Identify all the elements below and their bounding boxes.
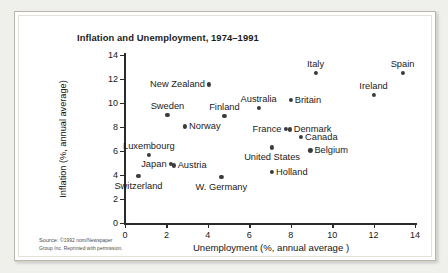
- y-axis-tick-label: 0: [113, 218, 118, 228]
- data-point-label: Finland: [209, 102, 240, 112]
- data-point: [371, 93, 375, 97]
- source-line1: ©1992 nom/Newspaper: [59, 238, 113, 243]
- x-axis-tick: [415, 223, 416, 228]
- data-point: [313, 71, 317, 75]
- data-point-label: Ireland: [359, 81, 387, 91]
- data-point-label: United States: [244, 152, 300, 162]
- data-point: [270, 170, 274, 174]
- source-label: Source:: [39, 237, 59, 243]
- scatter-plot-area: 0246810121402468101214SwitzerlandLuxembo…: [125, 55, 415, 223]
- data-point: [289, 98, 293, 102]
- x-axis-tick: [374, 223, 375, 228]
- data-point-label: Holland: [276, 167, 308, 177]
- x-axis-tick: [208, 223, 209, 228]
- data-point-label: New Zealand: [150, 79, 205, 89]
- data-point-label: Belgium: [314, 145, 348, 155]
- screenshot-frame: Inflation and Unemployment, 1974–1991 In…: [0, 0, 448, 273]
- data-point-label: Austria: [178, 160, 207, 170]
- data-point: [136, 174, 140, 178]
- y-axis-tick: [120, 55, 125, 56]
- data-point: [299, 135, 303, 139]
- source-credit: Source: ©1992 nom/Newspaper Group Inc. R…: [39, 236, 189, 252]
- x-axis-tick-label: 4: [205, 230, 210, 240]
- data-point-label: W. Germany: [195, 182, 247, 192]
- y-axis-tick: [120, 151, 125, 152]
- x-axis-tick: [125, 223, 126, 228]
- y-axis-tick-label: 12: [108, 74, 118, 84]
- data-point-label: France: [253, 124, 282, 134]
- x-axis-tick-label: 6: [247, 230, 252, 240]
- data-point-label: Japan: [141, 159, 166, 169]
- y-axis-tick-label: 8: [113, 122, 118, 132]
- data-point: [222, 114, 226, 118]
- data-point-label: Spain: [391, 59, 415, 69]
- y-axis-title-text: Inflation (%, annual average): [58, 80, 68, 197]
- data-point-label: Luxembourg: [123, 141, 175, 151]
- data-point: [183, 124, 187, 128]
- y-axis-tick-label: 4: [113, 170, 118, 180]
- chart-title: Inflation and Unemployment, 1974–1991: [77, 32, 377, 43]
- x-axis-tick-label: 14: [410, 230, 420, 240]
- y-axis-tick-label: 10: [108, 98, 118, 108]
- y-axis-tick: [120, 175, 125, 176]
- data-point-label: Switzerland: [114, 181, 162, 191]
- data-point: [270, 145, 274, 149]
- data-point: [288, 127, 292, 131]
- data-point: [400, 71, 404, 75]
- x-axis-tick-label: 12: [369, 230, 379, 240]
- x-axis-tick: [332, 223, 333, 228]
- x-axis-tick: [249, 223, 250, 228]
- data-point: [147, 153, 151, 157]
- x-axis-tick: [166, 223, 167, 228]
- data-point-label: Australia: [241, 94, 277, 104]
- figure-plate: Inflation and Unemployment, 1974–1991 In…: [14, 11, 436, 261]
- source-line2: Group Inc. Reprinted with permission.: [39, 246, 123, 251]
- y-axis-tick-label: 14: [108, 50, 118, 60]
- x-axis-tick: [291, 223, 292, 228]
- y-axis-tick-label: 2: [113, 194, 118, 204]
- data-point: [308, 148, 312, 152]
- x-axis-tick-label: 10: [327, 230, 337, 240]
- y-axis-tick: [120, 103, 125, 104]
- data-point: [165, 113, 169, 117]
- y-axis-tick-label: 6: [113, 146, 118, 156]
- y-axis-tick: [120, 127, 125, 128]
- data-point: [172, 163, 176, 167]
- data-point-label: Italy: [307, 59, 324, 69]
- data-point-label: Norway: [189, 121, 221, 131]
- y-axis-tick: [120, 199, 125, 200]
- data-point-label: Canada: [305, 132, 338, 142]
- data-point: [219, 175, 223, 179]
- data-point-label: Britain: [295, 95, 321, 105]
- x-axis-tick-label: 8: [288, 230, 293, 240]
- data-point: [257, 106, 261, 110]
- data-point: [207, 82, 211, 86]
- y-axis-title: Inflation (%, annual average): [56, 55, 70, 223]
- data-point-label: Sweden: [151, 101, 185, 111]
- y-axis-tick: [120, 79, 125, 80]
